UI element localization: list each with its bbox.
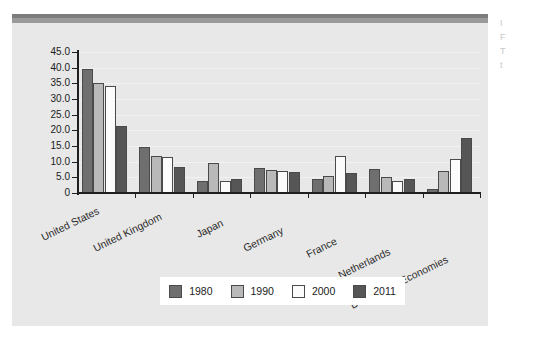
y-tick-mark xyxy=(72,99,78,100)
y-tick-label: 25.0 xyxy=(30,110,70,120)
bar-group xyxy=(82,52,128,193)
x-axis-line xyxy=(77,192,481,194)
bar xyxy=(254,168,265,193)
bar xyxy=(381,177,392,193)
margin-text-fragment: F xyxy=(500,32,536,42)
x-tick-mark xyxy=(193,193,194,198)
x-tick-mark xyxy=(135,193,136,198)
bar xyxy=(277,171,288,193)
bar-group xyxy=(197,52,243,193)
legend-swatch xyxy=(231,285,244,298)
bar xyxy=(335,156,346,193)
legend-item: 2000 xyxy=(292,285,335,298)
y-tick-mark xyxy=(72,193,78,194)
y-tick-mark xyxy=(72,177,78,178)
legend-label: 1980 xyxy=(189,285,212,297)
y-tick-label: 0 xyxy=(30,188,70,198)
page-root: 05.010.015.020.025.030.035.040.045.0 Uni… xyxy=(0,0,536,340)
bar xyxy=(82,69,93,193)
legend-swatch xyxy=(169,285,182,298)
y-tick-label: 15.0 xyxy=(30,141,70,151)
bar xyxy=(461,138,472,193)
y-tick-mark xyxy=(72,162,78,163)
bar xyxy=(450,159,461,193)
y-tick-mark xyxy=(72,130,78,131)
margin-text-fragment: I xyxy=(500,18,536,28)
bar-group xyxy=(369,52,415,193)
bar xyxy=(323,176,334,193)
y-tick-label: 30.0 xyxy=(30,94,70,104)
bar-group xyxy=(139,52,185,193)
y-tick-mark xyxy=(72,52,78,53)
legend-swatch xyxy=(353,285,366,298)
y-tick-mark xyxy=(72,146,78,147)
legend-label: 1990 xyxy=(251,285,274,297)
y-tick-label: 45.0 xyxy=(30,47,70,57)
legend-item: 1980 xyxy=(169,285,212,298)
bar-group xyxy=(427,52,473,193)
legend-item: 1990 xyxy=(231,285,274,298)
legend-swatch xyxy=(292,285,305,298)
y-tick-mark xyxy=(72,115,78,116)
bar xyxy=(208,163,219,193)
panel-top-rule-secondary xyxy=(12,18,488,23)
bar xyxy=(151,156,162,193)
bar xyxy=(139,147,150,193)
y-tick-label: 20.0 xyxy=(30,125,70,135)
chart-legend: 1980199020002011 xyxy=(160,277,405,305)
bar xyxy=(369,169,380,193)
bar-group xyxy=(254,52,300,193)
bar xyxy=(312,179,323,193)
x-tick-mark xyxy=(308,193,309,198)
y-tick-label: 5.0 xyxy=(30,172,70,182)
y-tick-label: 35.0 xyxy=(30,78,70,88)
bar xyxy=(93,83,104,193)
y-tick-label: 40.0 xyxy=(30,63,70,73)
bar xyxy=(404,179,415,193)
bar xyxy=(116,126,127,193)
y-tick-mark xyxy=(72,83,78,84)
bar xyxy=(438,171,449,193)
bar xyxy=(105,86,116,193)
x-tick-mark xyxy=(365,193,366,198)
bar xyxy=(346,173,357,193)
plot-area xyxy=(78,52,480,193)
legend-item: 2011 xyxy=(353,285,396,298)
x-tick-mark xyxy=(480,193,481,198)
bar xyxy=(266,170,277,193)
legend-label: 2000 xyxy=(312,285,335,297)
x-tick-mark xyxy=(423,193,424,198)
bar xyxy=(231,179,242,193)
bar xyxy=(289,172,300,193)
bar-group xyxy=(312,52,358,193)
y-tick-label: 10.0 xyxy=(30,157,70,167)
y-axis-line xyxy=(77,50,79,195)
margin-text-fragment: T xyxy=(500,46,536,56)
y-axis-tick-labels: 05.010.015.020.025.030.035.040.045.0 xyxy=(24,0,70,340)
y-tick-mark xyxy=(72,68,78,69)
bar xyxy=(162,157,173,193)
legend-label: 2011 xyxy=(373,285,396,297)
x-tick-mark xyxy=(250,193,251,198)
margin-text-fragment: t xyxy=(500,60,536,70)
bar xyxy=(174,167,185,193)
